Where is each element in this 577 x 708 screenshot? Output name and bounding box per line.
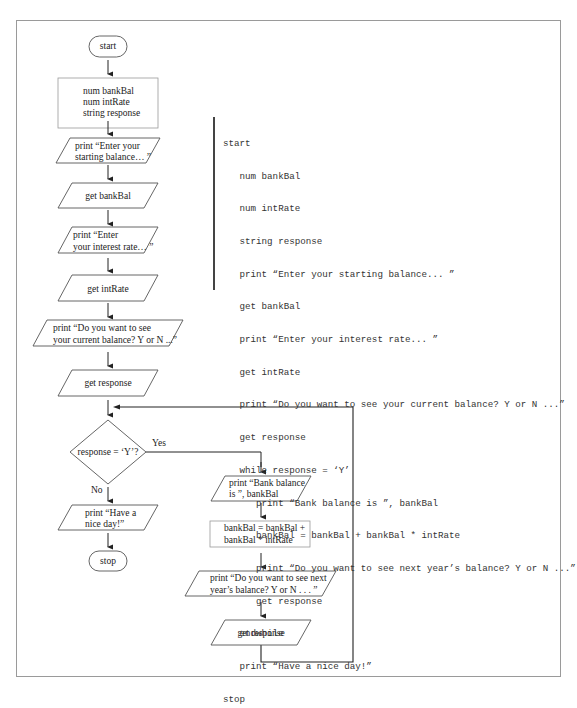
code-line: get response — [223, 597, 576, 608]
code-line: get bankBal — [223, 302, 576, 313]
code-line: print “Bank balance is ”, bankBal — [223, 499, 576, 510]
get-response-1-label: get response — [58, 377, 158, 389]
no-label: No — [91, 484, 103, 496]
code-line: print “Enter your interest rate... ” — [223, 335, 576, 346]
print-nice-day-line2: nice day!” — [85, 518, 124, 530]
print-interest-rate-line1: print “Enter — [73, 229, 118, 241]
pseudocode-block: start num bankBal num intRate string res… — [223, 117, 576, 708]
print-starting-balance-line2: starting balance… ” — [75, 151, 151, 163]
loop-arrowhead — [113, 405, 120, 410]
code-line: num bankBal — [223, 172, 576, 183]
code-line: get intRate — [223, 368, 576, 379]
declaration-line: string response — [83, 107, 140, 119]
decision-label: response = ‘Y’? — [70, 446, 146, 458]
code-line: stop — [223, 695, 576, 706]
code-line: while response = ‘Y’ — [223, 466, 576, 477]
code-line: start — [223, 139, 576, 150]
code-line: bankBal = bankBal + bankBal * intRate — [223, 531, 576, 542]
get-intrate-label: get intRate — [58, 283, 158, 295]
code-line: string response — [223, 237, 576, 248]
code-line: print “Enter your starting balance... ” — [223, 270, 576, 281]
code-line: endwhile — [223, 629, 576, 640]
start-label: start — [89, 40, 127, 52]
code-line: get response — [223, 433, 576, 444]
get-bankbal-label: get bankBal — [58, 190, 158, 202]
yes-label: Yes — [152, 437, 166, 449]
code-line: print “Do you want to see next year’s ba… — [223, 564, 576, 575]
code-line: print “Have a nice day!” — [223, 662, 576, 673]
print-see-current-line1: print “Do you want to see — [53, 322, 151, 334]
code-line: print “Do you want to see your current b… — [223, 400, 576, 411]
print-interest-rate-line2: your interest rate… ” — [73, 241, 153, 253]
stop-label: stop — [89, 555, 127, 567]
pseudocode-bracket — [213, 117, 215, 290]
print-see-current-line2: your current balance? Y or N ...” — [53, 334, 177, 346]
code-line: num intRate — [223, 204, 576, 215]
